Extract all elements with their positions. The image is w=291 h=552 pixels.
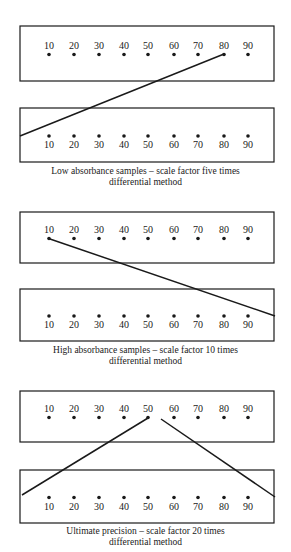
upper-scale-dot-40 <box>122 416 126 420</box>
panel-ultimate-precision: 101020203030404050506060707080809090 <box>20 391 275 523</box>
lower-scale-label-30: 30 <box>94 319 104 330</box>
upper-scale-label-20: 20 <box>69 40 79 51</box>
upper-scale-dot-30 <box>97 416 101 420</box>
lower-scale-label-80: 80 <box>219 319 229 330</box>
lower-scale-label-60: 60 <box>169 139 179 150</box>
lower-scale-dot-10 <box>47 496 51 500</box>
caption-line-2: differential method <box>0 356 291 367</box>
lower-scale-dot-20 <box>72 134 76 138</box>
upper-scale-label-60: 60 <box>169 403 179 414</box>
differential-method-diagram: 1010202030304040505060607070808090901010… <box>0 0 291 552</box>
caption-line-2: differential method <box>0 537 291 548</box>
lower-scale-label-40: 40 <box>119 139 129 150</box>
lower-scale-dot-60 <box>172 134 176 138</box>
upper-scale-dot-70 <box>196 237 200 241</box>
pointer-line-2 <box>161 419 275 497</box>
lower-scale-label-90: 90 <box>243 139 253 150</box>
lower-scale-dot-90 <box>246 314 250 318</box>
lower-scale-label-80: 80 <box>219 139 229 150</box>
lower-scale-label-50: 50 <box>143 319 153 330</box>
lower-scale-label-60: 60 <box>169 319 179 330</box>
lower-scale-dot-90 <box>246 134 250 138</box>
upper-scale-dot-70 <box>196 416 200 420</box>
upper-scale-label-40: 40 <box>119 403 129 414</box>
upper-scale-dot-10 <box>47 53 51 57</box>
lower-scale-dot-50 <box>146 134 150 138</box>
panel-high-absorbance: 101020203030404050506060707080809090 <box>20 212 275 341</box>
lower-scale-label-20: 20 <box>69 139 79 150</box>
upper-scale-dot-70 <box>196 53 200 57</box>
upper-scale-label-10: 10 <box>44 403 54 414</box>
upper-scale-dot-60 <box>172 53 176 57</box>
upper-scale-label-40: 40 <box>119 40 129 51</box>
lower-scale-dot-70 <box>196 496 200 500</box>
lower-scale-dot-70 <box>196 134 200 138</box>
upper-scale-dot-40 <box>122 53 126 57</box>
pointer-line-1 <box>20 54 224 136</box>
upper-scale-dot-90 <box>246 416 250 420</box>
caption-low-absorbance: Low absorbance samples – scale factor fi… <box>0 166 291 188</box>
lower-scale-label-30: 30 <box>94 139 104 150</box>
lower-scale-label-70: 70 <box>193 501 203 512</box>
upper-scale-dot-20 <box>72 416 76 420</box>
lower-scale-dot-30 <box>97 314 101 318</box>
lower-scale-label-30: 30 <box>94 501 104 512</box>
caption-ultimate-precision: Ultimate precision – scale factor 20 tim… <box>0 526 291 548</box>
upper-scale-label-10: 10 <box>44 40 54 51</box>
lower-scale-label-90: 90 <box>243 501 253 512</box>
upper-scale-dot-60 <box>172 237 176 241</box>
upper-scale-dot-30 <box>97 53 101 57</box>
upper-scale-dot-50 <box>146 237 150 241</box>
lower-scale-dot-40 <box>122 314 126 318</box>
lower-scale-label-10: 10 <box>44 139 54 150</box>
pointer-line-1 <box>50 239 275 316</box>
caption-high-absorbance: High absorbance samples – scale factor 1… <box>0 345 291 367</box>
lower-scale-label-10: 10 <box>44 319 54 330</box>
panel-low-absorbance: 101020203030404050506060707080809090 <box>20 26 274 162</box>
lower-scale-label-80: 80 <box>219 501 229 512</box>
upper-scale-label-70: 70 <box>193 224 203 235</box>
lower-scale-label-10: 10 <box>44 501 54 512</box>
upper-scale-dot-40 <box>122 237 126 241</box>
lower-scale-label-50: 50 <box>143 501 153 512</box>
upper-scale-label-50: 50 <box>143 40 153 51</box>
upper-scale-label-10: 10 <box>44 224 54 235</box>
lower-scale-label-70: 70 <box>193 139 203 150</box>
caption-line-1: Low absorbance samples – scale factor fi… <box>0 166 291 177</box>
caption-line-1: High absorbance samples – scale factor 1… <box>0 345 291 356</box>
upper-scale-label-70: 70 <box>193 403 203 414</box>
upper-scale-label-60: 60 <box>169 224 179 235</box>
upper-scale-label-40: 40 <box>119 224 129 235</box>
lower-scale-label-90: 90 <box>243 319 253 330</box>
lower-scale-label-20: 20 <box>69 319 79 330</box>
upper-scale-label-50: 50 <box>143 224 153 235</box>
upper-scale-label-50: 50 <box>143 403 153 414</box>
lower-scale-dot-80 <box>222 134 226 138</box>
lower-scale-dot-20 <box>72 496 76 500</box>
lower-scale-dot-30 <box>97 496 101 500</box>
upper-scale-label-90: 90 <box>243 224 253 235</box>
upper-scale-dot-60 <box>172 416 176 420</box>
upper-scale-label-60: 60 <box>169 40 179 51</box>
upper-scale-dot-90 <box>246 53 250 57</box>
upper-scale-dot-30 <box>97 237 101 241</box>
lower-scale-dot-10 <box>47 134 51 138</box>
lower-scale-dot-30 <box>97 134 101 138</box>
lower-scale-label-40: 40 <box>119 501 129 512</box>
upper-scale-dot-10 <box>47 416 51 420</box>
caption-line-2: differential method <box>0 177 291 188</box>
upper-scale-label-20: 20 <box>69 224 79 235</box>
upper-scale-dot-90 <box>246 237 250 241</box>
upper-scale-label-30: 30 <box>94 224 104 235</box>
lower-scale-label-20: 20 <box>69 501 79 512</box>
pointer-line-1 <box>22 418 148 495</box>
lower-scale-dot-70 <box>196 314 200 318</box>
upper-scale-label-30: 30 <box>94 40 104 51</box>
upper-scale-label-20: 20 <box>69 403 79 414</box>
upper-scale-dot-80 <box>222 237 226 241</box>
lower-scale-dot-50 <box>146 496 150 500</box>
upper-scale-label-70: 70 <box>193 40 203 51</box>
lower-scale-dot-20 <box>72 314 76 318</box>
lower-scale-dot-60 <box>172 496 176 500</box>
upper-scale-label-30: 30 <box>94 403 104 414</box>
